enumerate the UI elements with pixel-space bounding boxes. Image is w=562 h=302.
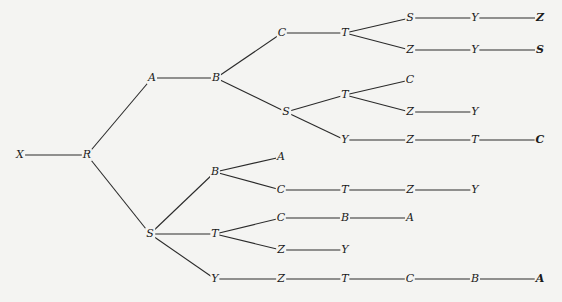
tree-edge [215,218,281,234]
tree-edge [345,33,410,50]
tree-node-c: C [277,27,287,39]
tree-node-c: C [405,74,415,86]
tree-edge [286,95,345,112]
tree-node-c: C [276,212,286,224]
tree-edge [216,78,286,112]
tree-node-y: Y [470,12,479,24]
tree-node-z: Z [405,134,415,146]
tree-edge [87,155,150,234]
tree-node-y: Y [470,184,479,196]
tree-node-y: Y [340,134,349,146]
tree-node-y: Y [340,244,349,256]
tree-node-c: C [276,184,286,196]
tree-node-a: A [276,151,286,163]
tree-node-a: A [535,273,546,285]
tree-node-s: S [405,12,415,24]
tree-edge [345,80,410,95]
tree-node-z: Z [276,244,286,256]
tree-node-r: R [82,149,92,161]
tree-edge [215,172,281,190]
tree-node-y: Y [210,273,219,285]
tree-diagram: XRABCTSYZZYSSTCZYYZTCSBACTZYTCBAZYYZTCBA [0,0,562,302]
tree-node-t: T [340,27,349,39]
tree-edge [215,157,281,172]
tree-node-y: Y [470,44,479,56]
tree-edge [150,234,215,279]
tree-node-a: A [147,72,157,84]
tree-node-b: B [210,166,220,178]
tree-edge [216,33,282,78]
tree-node-y: Y [470,106,479,118]
tree-edge [286,112,345,140]
tree-node-b: B [470,273,480,285]
tree-node-s: S [281,106,291,118]
tree-edge [150,172,215,234]
tree-node-z: Z [276,273,286,285]
tree-node-z: Z [535,12,545,24]
tree-edge [87,78,152,155]
tree-edge [215,234,281,250]
tree-node-s: S [535,44,545,56]
tree-node-c: C [405,273,415,285]
tree-node-a: A [405,212,415,224]
tree-node-z: Z [405,44,415,56]
tree-node-t: T [340,184,349,196]
tree-node-z: Z [405,184,415,196]
tree-node-t: T [340,273,349,285]
tree-node-t: T [340,89,349,101]
tree-node-b: B [340,212,350,224]
tree-node-z: Z [405,106,415,118]
tree-node-t: T [210,228,219,240]
tree-node-t: T [470,134,479,146]
tree-node-x: X [15,149,25,161]
tree-edge [345,18,410,33]
tree-node-b: B [211,72,221,84]
tree-edge [345,95,410,112]
tree-node-s: S [145,228,155,240]
tree-node-c: C [535,134,546,146]
